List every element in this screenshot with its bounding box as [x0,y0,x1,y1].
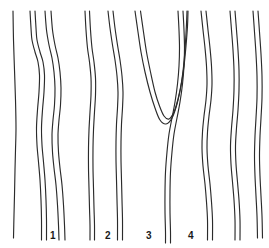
group-label-3: 3 [146,231,152,241]
group-label-1: 1 [50,231,56,241]
group-label-4: 4 [188,231,194,241]
figure-background [0,0,269,248]
line-trace-diagram [0,0,269,248]
group-label-2: 2 [105,231,111,241]
figure-container: 1234 [0,0,269,248]
